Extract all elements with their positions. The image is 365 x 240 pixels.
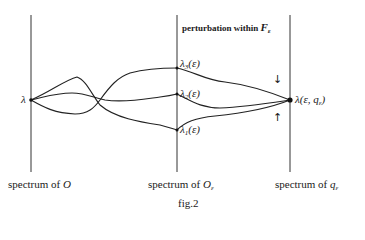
- figure-caption: fig.2: [178, 198, 198, 209]
- caption-q-eps-subscript: ε: [335, 184, 338, 192]
- caption-O-eps-symbol: O: [203, 178, 211, 190]
- caption-q-eps-prefix: spectrum of: [275, 178, 330, 190]
- caption-O-symbol: O: [63, 178, 71, 190]
- caption-spectrum-q-eps: spectrum of qε: [275, 179, 338, 192]
- caption-O-eps-subscript: ε: [211, 184, 214, 192]
- caption-O-prefix: spectrum of: [8, 178, 63, 190]
- lambda-label: λ: [21, 94, 26, 105]
- arrow-down-icon: ↓: [273, 74, 282, 85]
- lambda-eps-q-text: λ(ε, q: [295, 93, 319, 105]
- lambda2-arg: (ε): [188, 87, 200, 99]
- family-symbol: F: [261, 21, 268, 33]
- lambda1-label: λ1(ε): [180, 124, 200, 137]
- lambda2-label: λ2(ε): [180, 88, 200, 101]
- point-lambda3: [176, 67, 179, 70]
- caption-O-eps-prefix: spectrum of: [148, 178, 203, 190]
- perturbation-label: perturbation within Fε: [182, 22, 271, 35]
- lambda-symbol: λ: [21, 93, 26, 105]
- arrow-up-icon: ↑: [273, 112, 282, 123]
- lambda-eps-q-label: λ(ε, qε): [295, 94, 325, 107]
- lambda1-arg: (ε): [188, 123, 200, 135]
- point-lambda1: [176, 129, 179, 132]
- curve-to-lambda1: [31, 77, 177, 130]
- lambda-eps-q-close: ): [322, 93, 326, 105]
- point-lambda-eps-q: [287, 97, 292, 102]
- family-subscript: ε: [268, 27, 271, 35]
- caption-spectrum-O-eps: spectrum of Oε: [148, 179, 214, 192]
- lambda3-arg: (ε): [188, 57, 200, 69]
- point-lambda: [29, 98, 33, 102]
- point-lambda2: [176, 93, 179, 96]
- caption-spectrum-O: spectrum of O: [8, 179, 71, 190]
- curve-to-lambda3: [31, 68, 177, 114]
- lambda3-label: λ3(ε): [180, 58, 200, 71]
- perturbation-label-text: perturbation within: [182, 23, 261, 33]
